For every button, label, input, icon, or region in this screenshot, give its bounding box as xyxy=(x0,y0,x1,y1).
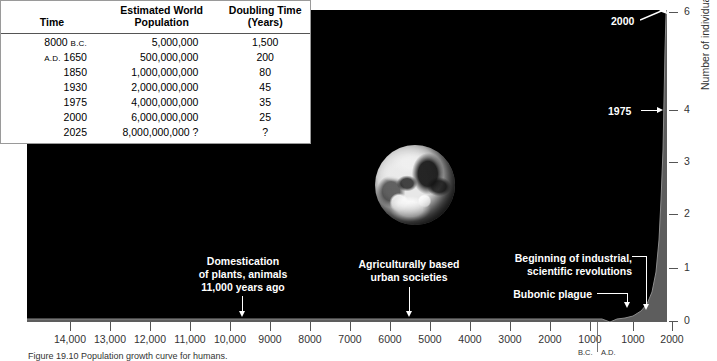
cell-time: 1850 xyxy=(1,64,103,79)
cell-time: 8000 B.C. xyxy=(1,34,103,50)
arrow-domestication xyxy=(239,311,245,317)
xtick-mark xyxy=(633,322,634,331)
ytick-mark-1 xyxy=(669,268,678,269)
cell-population: 2,000,000,000 xyxy=(103,79,220,94)
cell-population: 500,000,000 xyxy=(103,49,220,64)
xtick-mark xyxy=(470,322,471,331)
cell-time: A.D. 1650 xyxy=(1,49,103,64)
cell-doubling-time: 25 xyxy=(220,109,310,124)
ytick-mark-3 xyxy=(669,162,678,163)
ytick-mark-0 xyxy=(669,321,678,322)
xtick-label: 1000 xyxy=(621,333,644,345)
ytick-label-3: 3 xyxy=(684,155,690,167)
xtick-mark xyxy=(350,322,351,331)
table-row: 18501,000,000,00080 xyxy=(1,64,310,79)
table-row: 8000 B.C.5,000,0001,500 xyxy=(1,34,310,50)
xtick-mark xyxy=(550,322,551,331)
ytick-label-1: 1 xyxy=(684,261,690,273)
cell-time: 2025 xyxy=(1,124,103,139)
xaxis-era-ad: A.D. xyxy=(601,348,616,357)
xtick-mark xyxy=(110,322,111,331)
table-row: 19302,000,000,00045 xyxy=(1,79,310,94)
ytick-mark-2 xyxy=(669,214,678,215)
header-estimated-world-population: Estimated World Population xyxy=(103,1,220,34)
figure-caption: Figure 19.10 Population growth curve for… xyxy=(28,351,228,361)
xtick-label: 8000 xyxy=(298,333,321,345)
cell-time: 1975 xyxy=(1,94,103,109)
annotation-bubonic-plague: Bubonic plague xyxy=(490,288,592,301)
arrow-plague xyxy=(624,302,630,308)
annotation-urban-societies: Agriculturally based urban societies xyxy=(339,258,479,284)
cell-time: 2000 xyxy=(1,109,103,124)
ytick-mark-6 xyxy=(669,12,678,13)
cell-population: 5,000,000 xyxy=(103,34,220,50)
xtick-mark xyxy=(150,322,151,331)
xtick-label: 3000 xyxy=(498,333,521,345)
ytick-label-0: 0 xyxy=(684,314,690,326)
population-data-table: Time Estimated World Population Doubling… xyxy=(0,0,311,144)
xtick-mark xyxy=(70,322,71,331)
y-axis-label: Number of individuals (billions) xyxy=(699,0,711,90)
xtick-label: 1000 xyxy=(578,333,601,345)
xtick-label: 4000 xyxy=(458,333,481,345)
xtick-label: 14,000 xyxy=(54,333,86,345)
table-row: A.D. 1650500,000,000200 xyxy=(1,49,310,64)
leader-line-urban-societies xyxy=(409,287,410,312)
xtick-label: 5000 xyxy=(418,333,441,345)
cell-doubling-time: 35 xyxy=(220,94,310,109)
table-row: 19754,000,000,00035 xyxy=(1,94,310,109)
arrow-urban-societies xyxy=(406,311,412,317)
table-row: 20258,000,000,000 ?? xyxy=(1,124,310,139)
table-header-row: Time Estimated World Population Doubling… xyxy=(1,1,310,34)
xtick-mark xyxy=(510,322,511,331)
cell-population: 4,000,000,000 xyxy=(103,94,220,109)
xtick-label: 7000 xyxy=(338,333,361,345)
xtick-mark xyxy=(190,322,191,331)
xtick-label: 11,000 xyxy=(174,333,205,345)
xtick-mark xyxy=(310,322,311,331)
table-body: 8000 B.C.5,000,0001,500A.D. 1650500,000,… xyxy=(1,34,310,140)
cell-doubling-time: 1,500 xyxy=(220,34,310,50)
ytick-label-6: 6 xyxy=(684,5,690,17)
xtick-mark xyxy=(230,322,231,331)
annotation-domestication: Domestication of plants, animals 11,000 … xyxy=(168,255,318,294)
xtick-label: 13,000 xyxy=(94,333,126,345)
earth-photo xyxy=(375,145,455,225)
annotation-industrial-revolution: Beginning of industrial, scientific revo… xyxy=(460,252,632,278)
leader-line-2000 xyxy=(640,6,668,24)
ytick-mark-4 xyxy=(669,110,678,111)
cell-doubling-time: ? xyxy=(220,124,310,139)
cell-doubling-time: 45 xyxy=(220,79,310,94)
table-row: 20006,000,000,00025 xyxy=(1,109,310,124)
xtick-mark xyxy=(590,322,591,331)
ytick-label-2: 2 xyxy=(684,207,690,219)
xtick-label: 2000 xyxy=(538,333,561,345)
xtick-label: 9000 xyxy=(258,333,281,345)
cell-population: 6,000,000,000 xyxy=(103,109,220,124)
xtick-label: 12,000 xyxy=(134,333,166,345)
leader-line-domestication xyxy=(242,296,243,312)
xtick-mark xyxy=(270,322,271,331)
xtick-mark xyxy=(430,322,431,331)
cell-doubling-time: 80 xyxy=(220,64,310,79)
cell-population: 1,000,000,000 xyxy=(103,64,220,79)
arrow-1975 xyxy=(657,107,663,113)
xaxis-era-bc: B.C. xyxy=(578,348,593,357)
leader-hline-plague xyxy=(597,293,628,294)
arrow-industrial xyxy=(643,304,649,310)
cell-population: 8,000,000,000 ? xyxy=(103,124,220,139)
header-time: Time xyxy=(1,1,103,34)
cell-time: 1930 xyxy=(1,79,103,94)
bc-ad-divider xyxy=(597,322,598,352)
ytick-label-4: 4 xyxy=(684,103,690,115)
header-doubling-time: Doubling Time (Years) xyxy=(220,1,310,34)
annotation-year-1975: 1975 xyxy=(608,105,644,118)
xtick-mark xyxy=(672,322,673,331)
xtick-label: 10,000 xyxy=(214,333,246,345)
leader-vline-industrial xyxy=(646,256,647,305)
xtick-label: 6000 xyxy=(378,333,401,345)
cell-doubling-time: 200 xyxy=(220,49,310,64)
xtick-label: 2000 xyxy=(660,333,683,345)
leader-hline-industrial xyxy=(632,256,647,257)
xtick-mark xyxy=(390,322,391,331)
